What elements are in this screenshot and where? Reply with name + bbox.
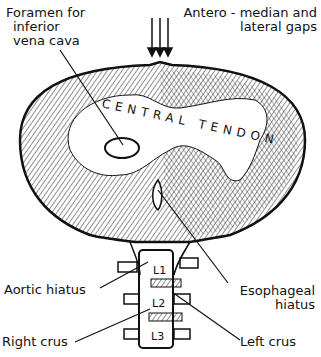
vertebra-l2: L2	[152, 297, 165, 311]
disc-l2-l3	[149, 313, 182, 321]
label-left-crus: Left crus	[240, 335, 296, 349]
disc-l1-l2	[151, 279, 181, 287]
vertebra-l1: L1	[153, 264, 166, 278]
label-antero-median: Antero - median and lateral gaps	[165, 6, 317, 34]
label-aortic-hiatus: Aortic hiatus	[4, 283, 86, 297]
vertebra-l3: L3	[151, 330, 164, 344]
label-esophageal-hiatus: Esophageal hiatus	[229, 284, 315, 312]
label-right-crus: Right crus	[2, 335, 68, 349]
label-foramen-ivc: Foramen for inferior vena cava	[6, 6, 85, 48]
